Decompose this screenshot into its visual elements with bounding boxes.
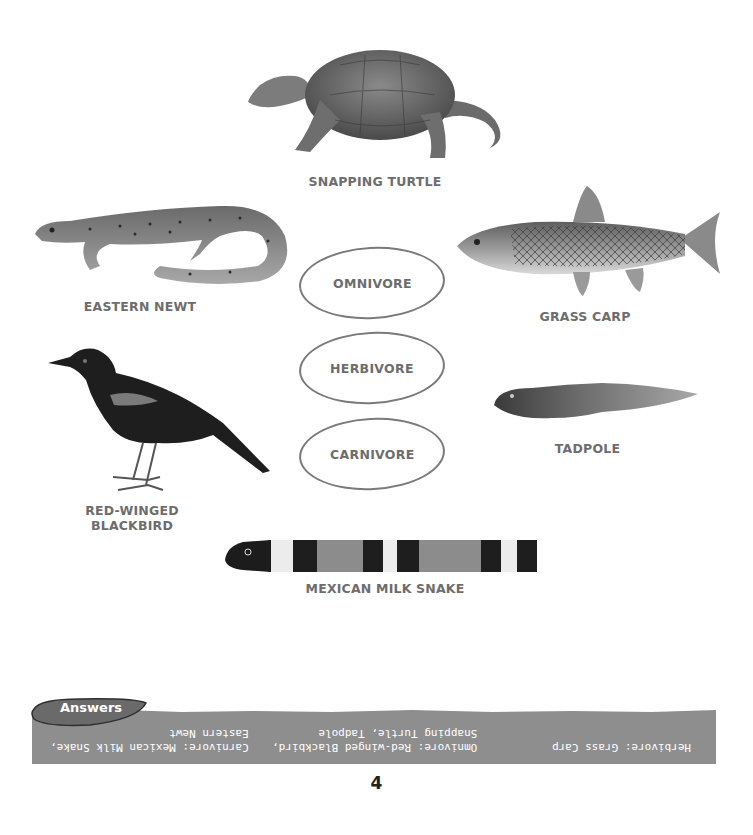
mexican-milk-snake-illustration[interactable] [223, 538, 537, 574]
answer-herbivore: Herbivore: Grass Carp [552, 740, 691, 754]
red-winged-blackbird-illustration[interactable] [48, 345, 273, 495]
answers-tab-label: Answers [60, 700, 122, 715]
animal-label-snapping-turtle: SNAPPING TURTLE [290, 174, 460, 189]
animal-label-eastern-newt: EASTERN NEWT [55, 299, 225, 314]
answer-omnivore: Omnivore: Red-winged Blackbird, Snapping… [272, 726, 477, 754]
eastern-newt-illustration[interactable] [30, 196, 290, 288]
animal-label-red-winged-blackbird: RED-WINGED BLACKBIRD [72, 503, 192, 533]
tadpole-illustration[interactable] [492, 380, 700, 422]
animal-label-mexican-milk-snake: MEXICAN MILK SNAKE [285, 581, 485, 596]
category-oval-carnivore[interactable]: CARNIVORE [297, 414, 447, 494]
category-label-carnivore: CARNIVORE [330, 447, 415, 462]
page-number: 4 [0, 773, 753, 793]
snapping-turtle-illustration[interactable] [240, 40, 515, 168]
answer-carnivore: Carnivore: Mexican Milk Snake, Eastern N… [50, 726, 249, 754]
category-oval-herbivore[interactable]: HERBIVORE [297, 328, 447, 408]
animal-label-grass-carp: GRASS CARP [500, 309, 670, 324]
category-label-omnivore: OMNIVORE [333, 276, 412, 291]
category-oval-omnivore[interactable]: OMNIVORE [297, 243, 447, 323]
category-label-herbivore: HERBIVORE [330, 361, 414, 376]
animal-label-tadpole: TADPOLE [520, 441, 655, 456]
grass-carp-illustration[interactable] [455, 184, 725, 296]
